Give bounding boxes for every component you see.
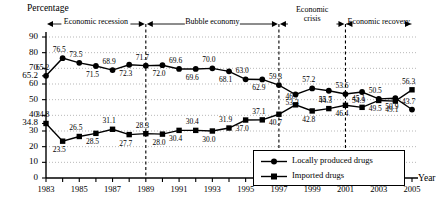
era-label-economic-recovery: Economic recovery [334,18,424,27]
era-label-economic-recession: Economic recession [51,18,141,27]
y-axis-tick-10: 10 [12,156,38,166]
data-label-locally-produced-1984: 76.5 [53,45,66,54]
chart-root: Percentage Year 010203040506070809065.23… [0,0,447,215]
data-label-imported-1998: 46.7 [286,92,299,101]
data-label-locally-produced-1987: 68.9 [103,57,116,66]
legend-square-icon [260,171,290,182]
x-axis-tick-1989: 1989 [129,184,163,194]
data-label-locally-produced-2005: 43.7 [402,97,415,106]
data-label-imported-1999: 42.8 [302,115,315,124]
y-axis-tick-34.8: 34.8 [12,117,38,127]
data-label-imported-1996: 37.1 [252,107,265,116]
data-label-imported-1997: 40.7 [269,118,282,127]
data-label-imported-2002: 45.1 [352,94,365,103]
data-label-locally-produced-1991: 69.6 [169,56,182,65]
y-axis-tick-90: 90 [12,31,38,41]
data-label-imported-2001: 46.4 [335,109,348,118]
y-axis-tick-80: 80 [12,47,38,57]
y-axis-tick-65.2: 65.2 [12,70,38,80]
data-label-imported-1989: 28.3 [136,121,149,130]
data-label-locally-produced-1988: 72.3 [119,69,132,78]
data-label-locally-produced-1999: 57.2 [302,75,315,84]
data-label-imported-1985: 26.5 [69,123,82,132]
data-label-locally-produced-1990: 72.0 [152,69,165,78]
y-axis-tick-0: 0 [12,172,38,182]
data-label-locally-produced-1986: 71.5 [86,70,99,79]
data-label-imported-1986: 28.5 [86,137,99,146]
era-label-line2: crisis [286,15,338,24]
data-label-imported-1983: 34.8 [36,110,49,119]
x-axis-tick-1991: 1991 [162,184,196,194]
legend-label-locally-produced-drugs: Locally produced drugs [292,155,373,165]
data-label-locally-produced-1995: 63.0 [236,66,249,75]
data-label-locally-produced-1993: 70.0 [202,55,215,64]
data-label-locally-produced-1989: 71.7 [136,53,149,62]
data-label-imported-1993: 30.0 [202,135,215,144]
x-axis-tick-1987: 1987 [96,184,130,194]
data-label-imported-1987: 31.1 [103,116,116,125]
chart-legend: Locally produced drugs Imported drugs [253,150,405,186]
data-label-locally-produced-1997: 59.3 [269,72,282,81]
x-axis-tick-1993: 1993 [195,184,229,194]
x-axis-tick-1985: 1985 [62,184,96,194]
data-label-locally-produced-1983: 65.2 [36,63,49,72]
legend-circle-icon [260,156,290,167]
data-label-imported-1994: 31.9 [219,115,232,124]
data-label-imported-1995: 37.0 [236,124,249,133]
data-label-locally-produced-2003: 50.5 [369,86,382,95]
data-label-imported-2005: 56.3 [402,77,415,86]
data-label-locally-produced-1985: 73.5 [69,50,82,59]
y-axis-tick-20: 20 [12,141,38,151]
era-label-bubble-economy: Bubble economy [167,18,257,27]
data-label-imported-1991: 30.4 [169,134,182,143]
data-label-imported-1988: 27.7 [119,139,132,148]
data-label-locally-produced-1994: 68.1 [219,75,232,84]
legend-label-imported-drugs: Imported drugs [292,170,344,180]
data-label-imported-2000: 44.3 [319,96,332,105]
data-label-locally-produced-2001: 53.6 [335,81,348,90]
data-label-locally-produced-1996: 62.9 [252,83,265,92]
data-label-imported-2004: 49.1 [385,105,398,114]
data-label-imported-2003: 49.5 [369,104,382,113]
y-axis-tick-50: 50 [12,94,38,104]
x-axis-tick-1983: 1983 [29,184,63,194]
data-label-imported-1990: 28.0 [152,138,165,147]
data-label-locally-produced-1992: 69.6 [186,73,199,82]
era-label-economic-crisis: Economiccrisis [286,6,338,23]
data-label-imported-1992: 30.4 [186,117,199,126]
data-label-imported-1984: 23.5 [53,145,66,154]
